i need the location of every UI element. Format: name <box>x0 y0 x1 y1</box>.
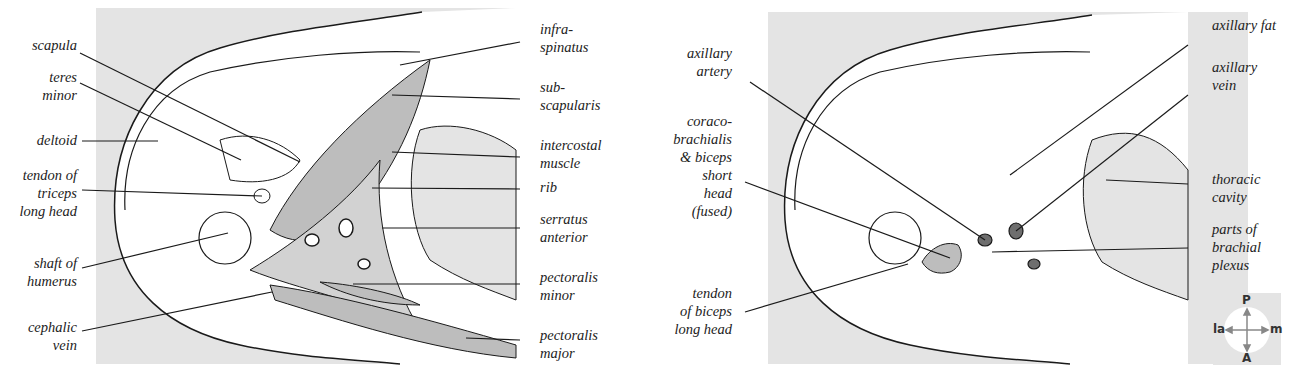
label-tendon-biceps: tendon of biceps long head <box>674 284 732 338</box>
label-brachial-plexus: parts of brachial plexus <box>1212 220 1261 274</box>
label-pectoralis-major: pectoralis major <box>540 326 598 362</box>
left-diagram-panel: scapula teres minor deltoid tendon of tr… <box>0 0 640 372</box>
label-coracobrachialis-biceps: coraco- brachialis & biceps short head (… <box>673 112 732 220</box>
compass-anterior-label: A <box>1242 351 1251 365</box>
label-tendon-triceps: tendon of triceps long head <box>19 166 77 220</box>
label-teres-minor: teres minor <box>42 68 77 104</box>
label-axillary-vein: axillary vein <box>1212 58 1257 94</box>
orientation-compass: P A la m <box>1213 293 1281 365</box>
label-rib: rib <box>540 178 557 196</box>
label-subscapularis: sub- scapularis <box>540 78 600 114</box>
compass-lateral-label: la <box>1213 322 1225 336</box>
label-pectoralis-minor: pectoralis minor <box>540 268 598 304</box>
label-axillary-fat: axillary fat <box>1212 16 1276 34</box>
label-scapula: scapula <box>32 36 77 54</box>
right-cross-section-drawing <box>640 0 1294 372</box>
label-deltoid: deltoid <box>37 131 77 149</box>
compass-posterior-label: P <box>1242 293 1251 307</box>
label-thoracic-cavity: thoracic cavity <box>1212 170 1260 206</box>
label-intercostal-muscle: intercostal muscle <box>540 136 601 172</box>
right-diagram-panel: axillary artery coraco- brachialis & bic… <box>640 0 1294 372</box>
compass-medial-label: m <box>1270 322 1283 336</box>
label-shaft-humerus: shaft of humerus <box>27 254 77 290</box>
label-axillary-artery: axillary artery <box>687 44 732 80</box>
label-cephalic-vein: cephalic vein <box>28 318 77 354</box>
label-serratus-anterior: serratus anterior <box>540 210 588 246</box>
label-infraspinatus: infra- spinatus <box>540 20 588 56</box>
